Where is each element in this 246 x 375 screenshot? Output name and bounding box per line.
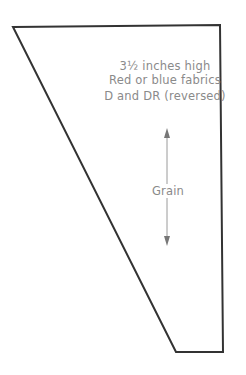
- fabrics-label: Red or blue fabrics: [100, 73, 230, 87]
- piece-label: D and DR (reversed): [100, 89, 230, 103]
- height-label: 3½ inches high: [100, 59, 230, 73]
- grain-label: Grain: [140, 184, 196, 198]
- template-drawing: [0, 0, 246, 375]
